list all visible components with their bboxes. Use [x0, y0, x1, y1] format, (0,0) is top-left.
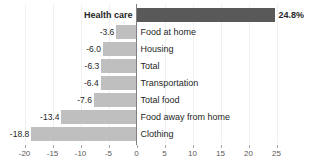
bar-category-label: Clothing [141, 127, 316, 141]
bar-rows: 24.8%Health care-3.6Food at home-6.0Hous… [0, 7, 315, 143]
bar-value-label: 24.8% [278, 8, 315, 22]
bar-row: -13.4Food away from home [0, 109, 315, 126]
bar [31, 127, 136, 141]
plot-area: 24.8%Health care-3.6Food at home-6.0Hous… [0, 0, 315, 144]
x-tick-label: 10 [188, 149, 197, 158]
x-tick-label: 5 [162, 149, 166, 158]
bar [103, 42, 137, 56]
x-tick-label: 25 [272, 149, 281, 158]
x-tick-mark [53, 145, 54, 148]
x-tick-label: -10 [75, 149, 87, 158]
x-tick-label: 0 [134, 149, 138, 158]
bar-category-label: Transportation [141, 76, 316, 90]
x-tick-label: 15 [216, 149, 225, 158]
bar [101, 59, 136, 73]
x-tick-mark [277, 145, 278, 148]
bar-row: -6.0Housing [0, 41, 315, 58]
x-tick-mark [249, 145, 250, 148]
bar-row: -6.4Transportation [0, 75, 315, 92]
bar-category-label: Food at home [141, 25, 316, 39]
bar-row: -18.8Clothing [0, 126, 315, 143]
x-tick-label: 20 [244, 149, 253, 158]
bar-value-label: -18.8 [0, 127, 29, 141]
bar-value-label: -6.3 [0, 59, 99, 73]
x-tick-label: -20 [19, 149, 31, 158]
x-tick-mark [193, 145, 194, 148]
bar-row: 24.8%Health care [0, 7, 315, 24]
bar-value-label: -13.4 [0, 110, 59, 124]
x-tick-label: -15 [47, 149, 59, 158]
bar-value-label: -6.0 [0, 42, 101, 56]
bar-chart: 24.8%Health care-3.6Food at home-6.0Hous… [0, 0, 315, 166]
bar-row: -7.6Total food [0, 92, 315, 109]
bar [101, 76, 137, 90]
x-tick-mark [81, 145, 82, 148]
bar-category-label: Total [141, 59, 316, 73]
bar-category-label: Housing [141, 42, 316, 56]
x-tick-mark [165, 145, 166, 148]
x-tick-mark [137, 145, 138, 148]
bar-category-label: Total food [141, 93, 316, 107]
x-tick-label: -5 [105, 149, 112, 158]
bar-value-label: -3.6 [0, 25, 114, 39]
bar-value-label: -7.6 [0, 93, 92, 107]
zero-axis-line [136, 4, 137, 145]
bar-row: -6.3Total [0, 58, 315, 75]
x-tick-mark [221, 145, 222, 148]
bar [137, 8, 276, 22]
bar [116, 25, 136, 39]
bar-value-label: -6.4 [0, 76, 99, 90]
x-tick-mark [109, 145, 110, 148]
bar-row: -3.6Food at home [0, 24, 315, 41]
bar [94, 93, 137, 107]
x-tick-mark [25, 145, 26, 148]
bar-category-label: Food away from home [141, 110, 316, 124]
bar [61, 110, 136, 124]
bar-category-label: Health care [0, 8, 133, 22]
x-axis: -20-15-10-50510152025 [0, 145, 315, 166]
